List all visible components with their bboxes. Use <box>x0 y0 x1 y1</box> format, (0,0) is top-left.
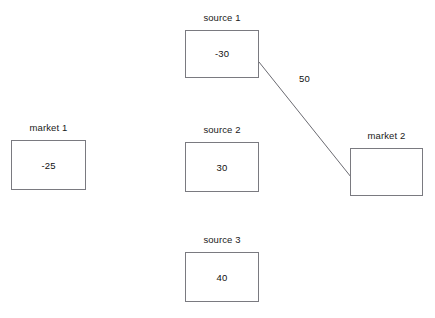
node-source-2-label: source 2 <box>185 124 259 135</box>
node-source-2-value: 30 <box>185 162 259 173</box>
node-source-1-label: source 1 <box>185 12 259 23</box>
node-market-2-label: market 2 <box>350 130 423 141</box>
node-source-3-value: 40 <box>185 272 259 283</box>
node-source-3-label: source 3 <box>185 234 259 245</box>
edge-source-1-to-market-2-label: 50 <box>299 73 310 84</box>
node-market-2-box[interactable] <box>350 148 423 196</box>
node-market-1-label: market 1 <box>11 122 86 133</box>
diagram-canvas: source 1 -30 market 1 -25 source 2 30 ma… <box>0 0 435 318</box>
node-market-1-value: -25 <box>11 160 86 171</box>
node-source-1-value: -30 <box>185 48 259 59</box>
